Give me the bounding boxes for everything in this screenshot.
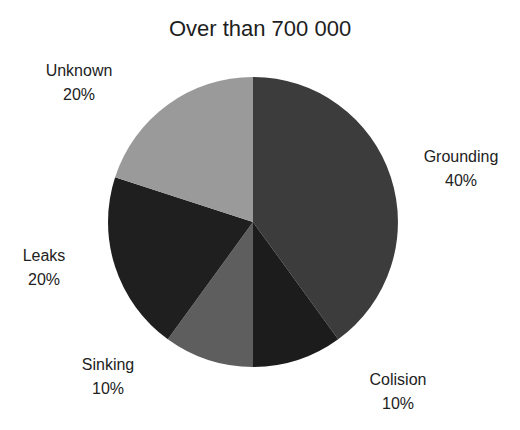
- label-sinking-name: Sinking: [53, 353, 163, 377]
- label-grounding-name: Grounding: [406, 145, 516, 169]
- label-colision: Colision 10%: [343, 368, 453, 416]
- label-leaks-name: Leaks: [0, 244, 99, 268]
- label-colision-name: Colision: [343, 368, 453, 392]
- label-leaks-pct: 20%: [0, 268, 99, 292]
- label-grounding: Grounding 40%: [406, 145, 516, 193]
- label-unknown-name: Unknown: [24, 59, 134, 83]
- label-unknown-pct: 20%: [24, 83, 134, 107]
- label-sinking-pct: 10%: [53, 377, 163, 401]
- label-sinking: Sinking 10%: [53, 353, 163, 401]
- label-leaks: Leaks 20%: [0, 244, 99, 292]
- label-grounding-pct: 40%: [406, 169, 516, 193]
- label-unknown: Unknown 20%: [24, 59, 134, 107]
- label-colision-pct: 10%: [343, 392, 453, 416]
